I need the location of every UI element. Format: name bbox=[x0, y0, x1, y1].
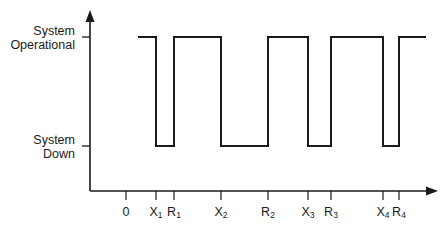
x-tick-label-x2: X2 bbox=[214, 205, 227, 220]
x-axis-arrowhead bbox=[426, 187, 438, 196]
system-state-waveform bbox=[138, 37, 426, 146]
x-tick-label-subscript: 3 bbox=[333, 210, 338, 220]
x-tick-label-main: R bbox=[324, 205, 333, 219]
x-tick-label-main: 0 bbox=[123, 205, 130, 219]
x-tick-label-subscript: 3 bbox=[310, 210, 315, 220]
x-tick-label-r3: R3 bbox=[324, 205, 338, 220]
x-tick-label-main: R bbox=[167, 205, 176, 219]
x-tick-label-subscript: 1 bbox=[176, 210, 181, 220]
x-tick-label-subscript: 2 bbox=[223, 210, 228, 220]
x-tick-label-r1: R1 bbox=[167, 205, 181, 220]
x-tick-label-main: R bbox=[261, 205, 270, 219]
x-tick-label-0: 0 bbox=[123, 205, 130, 219]
x-tick-label-subscript: 4 bbox=[385, 210, 390, 220]
x-tick-label-subscript: 1 bbox=[158, 210, 163, 220]
y-label-down-line2: Down bbox=[33, 147, 75, 161]
y-label-operational-line2: Operational bbox=[10, 38, 75, 52]
x-tick-label-subscript: 4 bbox=[401, 210, 406, 220]
y-label-operational: System Operational bbox=[10, 24, 75, 52]
y-label-down: System Down bbox=[33, 133, 75, 161]
y-label-down-line1: System bbox=[33, 133, 75, 147]
x-tick-label-x1: X1 bbox=[149, 205, 162, 220]
y-axis-arrowhead bbox=[86, 10, 95, 22]
y-label-operational-line1: System bbox=[10, 24, 75, 38]
x-tick-label-x4: X4 bbox=[376, 205, 389, 220]
x-tick-label-main: R bbox=[392, 205, 401, 219]
x-tick-label-subscript: 2 bbox=[270, 210, 275, 220]
x-tick-label-r4: R4 bbox=[392, 205, 406, 220]
x-tick-label-r2: R2 bbox=[261, 205, 275, 220]
x-tick-label-x3: X3 bbox=[301, 205, 314, 220]
